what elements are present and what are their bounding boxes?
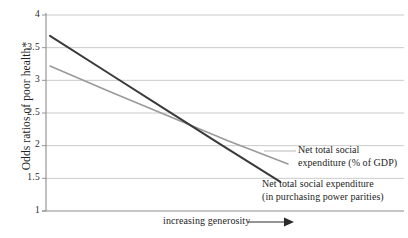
chart-figure: Odds ratios of poor health* 4 3.5 3 2.5 … xyxy=(0,0,408,238)
annotation-gdp-line1: Net total social xyxy=(298,144,359,155)
x-axis-caption: increasing generosity xyxy=(163,215,250,226)
annotation-net-total-social-expenditure-gdp: Net total social expenditure (% of GDP) xyxy=(298,144,397,169)
y-axis-ticks xyxy=(42,15,46,211)
annotation-ppp-line2: (in purchasing power parities) xyxy=(262,191,384,204)
annotation-ppp-line1: Net total social expenditure xyxy=(262,178,374,189)
annotation-net-total-social-expenditure-ppp: Net total social expenditure (in purchas… xyxy=(262,178,384,203)
increasing-arrow-icon xyxy=(248,215,296,229)
annotation-gdp-line2: expenditure (% of GDP) xyxy=(298,157,397,170)
series-line-net-total-social-expenditure-ppp xyxy=(50,36,280,182)
